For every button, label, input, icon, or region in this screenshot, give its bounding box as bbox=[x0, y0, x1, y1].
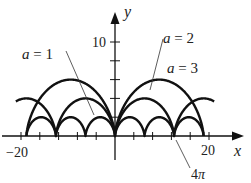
annotation-4pi-leader bbox=[176, 140, 190, 168]
annotation-a1-rest: = 1 bbox=[30, 46, 53, 62]
x-tick-label-neg20: −20 bbox=[6, 145, 28, 160]
x-axis-label: x bbox=[233, 142, 241, 159]
cycloid-chart: −20 20 10 x y a = 1 a = 2 a = 3 4π bbox=[0, 0, 251, 183]
annotation-a2: a = 2 bbox=[163, 30, 194, 46]
x-axis-arrow-icon bbox=[232, 132, 244, 141]
y-axis-arrow-icon bbox=[111, 12, 120, 24]
annotation-a1: a = 1 bbox=[22, 46, 53, 62]
annotation-a2-leader bbox=[150, 39, 163, 90]
y-tick-label-10: 10 bbox=[92, 35, 106, 50]
x-tick-label-20: 20 bbox=[201, 143, 215, 158]
y-axis-label: y bbox=[122, 3, 132, 21]
annotation-a3: a = 3 bbox=[167, 60, 198, 76]
annotation-4pi: 4π bbox=[191, 167, 206, 182]
